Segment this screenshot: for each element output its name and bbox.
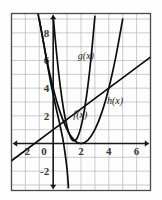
curve-label-fx: f(x) xyxy=(73,109,88,121)
x-tick-label: 6 xyxy=(134,145,140,157)
coordinate-graph-figure: -20246-22468 g(x)h(x)f(x) xyxy=(0,0,162,200)
x-tick-label: 4 xyxy=(106,145,112,157)
y-tick-label: -2 xyxy=(40,165,50,177)
curve-label-hx: h(x) xyxy=(107,95,124,107)
y-tick-label: 2 xyxy=(44,110,50,122)
y-tick-label: 8 xyxy=(44,27,50,39)
x-tick-label: 2 xyxy=(78,145,84,157)
x-tick-label: 0 xyxy=(41,145,47,157)
graph-svg: -20246-22468 g(x)h(x)f(x) xyxy=(0,0,162,200)
y-tick-label: 4 xyxy=(44,82,50,94)
curve-label-gx: g(x) xyxy=(78,50,95,62)
